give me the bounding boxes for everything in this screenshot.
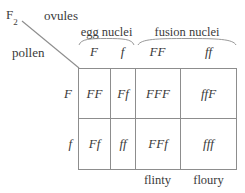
generation-subscript: 2 — [13, 17, 18, 27]
column-header-3: ff — [180, 45, 237, 58]
grid-cell-r1c2: FFf — [136, 119, 181, 169]
punnett-grid: FF Ff FFF ffF Ff ff FFf fff — [78, 68, 237, 170]
pollen-axis-label: pollen — [12, 46, 45, 59]
grid-cell-r1c0: Ff — [79, 119, 111, 169]
row-header-1: f — [48, 137, 72, 150]
generation-label: F2 — [6, 8, 18, 25]
grid-cell-r0c0: FF — [79, 69, 111, 118]
column-group-egg-nuclei: egg nuclei — [78, 26, 135, 39]
row-header-0: F — [48, 87, 72, 100]
punnett-square-figure: F2 ovules pollen egg nuclei fusion nucle… — [0, 0, 245, 193]
table-row: FF Ff FFF ffF — [79, 69, 236, 119]
grid-cell-r0c3: ffF — [181, 69, 236, 118]
phenotype-label-flinty: flinty — [135, 174, 180, 187]
grid-cell-r1c3: fff — [181, 119, 236, 169]
table-row: Ff ff FFf fff — [79, 119, 236, 169]
grid-cell-r0c1: Ff — [111, 69, 136, 118]
grid-cell-r1c1: ff — [111, 119, 136, 169]
ovules-axis-label: ovules — [44, 9, 78, 22]
column-group-fusion-nuclei: fusion nuclei — [137, 26, 237, 39]
column-header-0: F — [78, 45, 110, 58]
column-header-2: FF — [135, 45, 180, 58]
phenotype-label-floury: floury — [180, 174, 237, 187]
column-header-1: f — [110, 45, 135, 58]
grid-cell-r0c2: FFF — [136, 69, 181, 118]
